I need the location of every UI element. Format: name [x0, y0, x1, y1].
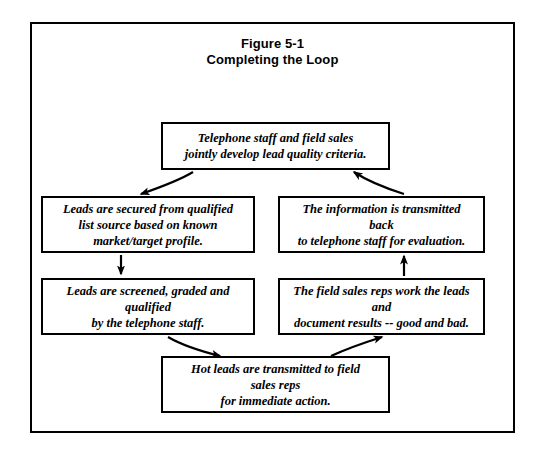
node-bottom-line-2: sales reps — [251, 377, 301, 393]
node-telephone-staff-field-sales[interactable]: Telephone staff and field sales jointly … — [161, 122, 390, 170]
edge-top-to-left-upper — [141, 172, 193, 194]
node-leads-secured[interactable]: Leads are secured from qualified list so… — [41, 196, 255, 253]
node-right-lower-line-3: document results -- good and bad. — [294, 315, 469, 331]
node-left-lower-line-3: by the telephone staff. — [92, 315, 205, 331]
node-right-lower-line-2: and — [372, 299, 391, 315]
edge-left-lower-to-bottom — [168, 337, 220, 356]
node-hot-leads-transmitted[interactable]: Hot leads are transmitted to field sales… — [161, 356, 390, 413]
node-leads-screened-graded[interactable]: Leads are screened, graded and qualified… — [41, 278, 255, 335]
node-bottom-line-1: Hot leads are transmitted to field — [191, 361, 360, 377]
node-bottom-line-3: for immediate action. — [220, 393, 330, 409]
edge-right-upper-to-top — [354, 172, 404, 194]
node-right-lower-line-1: The field sales reps work the leads — [293, 283, 469, 299]
node-right-upper-line-1: The information is transmitted — [302, 201, 460, 217]
edge-bottom-to-right-lower — [331, 337, 382, 356]
node-top-line-1: Telephone staff and field sales — [198, 130, 354, 146]
node-left-upper-line-3: market/target profile. — [93, 233, 203, 249]
node-right-upper-line-2: back — [369, 217, 393, 233]
node-left-upper-line-1: Leads are secured from qualified — [63, 201, 233, 217]
node-information-transmitted-back[interactable]: The information is transmitted back to t… — [278, 196, 485, 253]
node-left-lower-line-2: qualified — [125, 299, 171, 315]
node-left-upper-line-2: list source based on known — [79, 217, 218, 233]
node-field-sales-reps-work-leads[interactable]: The field sales reps work the leads and … — [278, 278, 485, 335]
figure-page: Figure 5-1 Completing the Loop Telephone… — [0, 0, 543, 456]
node-left-lower-line-1: Leads are screened, graded and — [67, 283, 230, 299]
node-right-upper-line-3: to telephone staff for evaluation. — [298, 233, 465, 249]
node-top-line-2: jointly develop lead quality criteria. — [185, 146, 367, 162]
